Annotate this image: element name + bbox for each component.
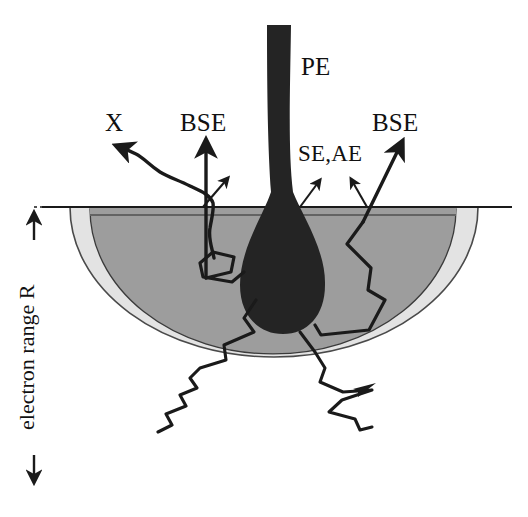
electron-interaction-diagram: PE X BSE BSE SE,AE electron range R (0, 0, 528, 517)
label-xray: X (105, 110, 123, 135)
label-bse-right: BSE (372, 110, 418, 135)
diagram-canvas (0, 0, 528, 517)
label-bse-left: BSE (180, 110, 226, 135)
label-electron-range: electron range R (14, 285, 40, 430)
label-se-ae: SE,AE (298, 142, 362, 165)
se-ae-arrow-right (351, 179, 367, 207)
label-pe: PE (301, 54, 331, 79)
se-ae-arrow-center (300, 180, 320, 207)
